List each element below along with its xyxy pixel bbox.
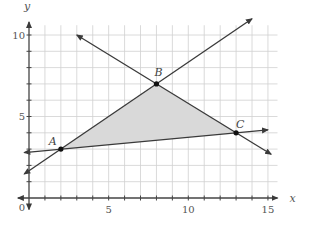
x-axis-label: x [290, 192, 297, 205]
origin-label: 0 [19, 202, 25, 213]
vertex-b-label: B [153, 66, 162, 79]
vertex-a-label: A [48, 135, 57, 148]
vertex-c-dot [233, 130, 238, 135]
x-tick-label: 15 [262, 204, 275, 215]
constraint-line [24, 19, 252, 174]
y-tick-label: 10 [12, 30, 25, 41]
feasible-region-graph: 510155100xy ABC [0, 0, 315, 240]
x-tick-label: 5 [105, 204, 111, 215]
y-tick-label: 5 [19, 111, 25, 122]
y-axis-label: y [23, 0, 31, 13]
vertex-c-label: C [236, 118, 245, 131]
vertex-b-dot [154, 81, 159, 86]
vertex-a-dot [58, 147, 63, 152]
x-tick-label: 10 [182, 204, 195, 215]
